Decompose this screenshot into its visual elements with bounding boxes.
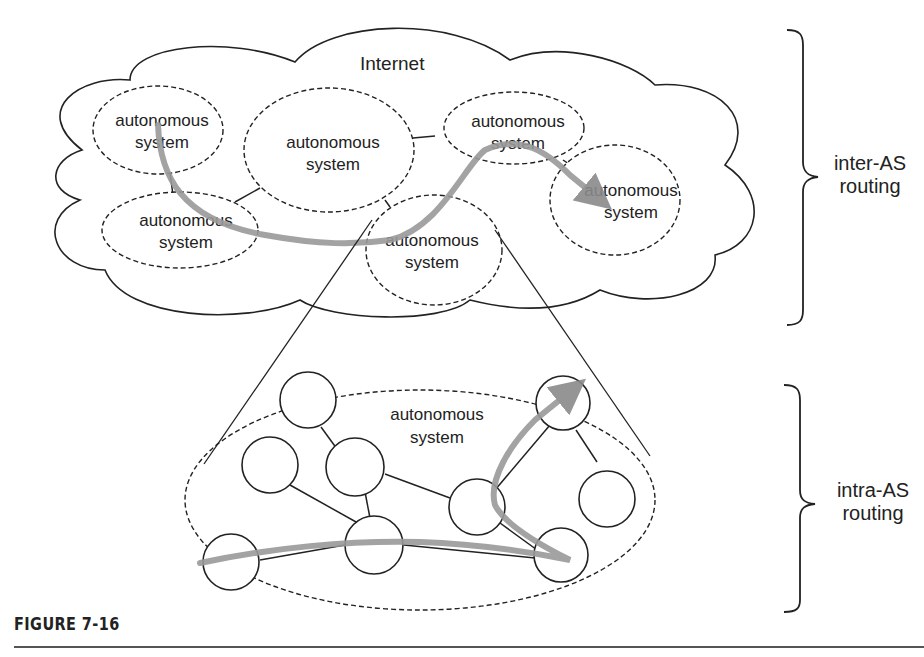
inter-as-label-1: inter-AS bbox=[834, 152, 906, 174]
intra-as-brace bbox=[784, 385, 815, 612]
as-node-5-label-2: system bbox=[159, 233, 213, 252]
caption-rule bbox=[14, 646, 924, 648]
router-6 bbox=[536, 376, 590, 430]
router-2 bbox=[242, 437, 298, 493]
intra-as-label-1: intra-AS bbox=[837, 479, 909, 501]
intra-as-label-2: system bbox=[410, 428, 464, 447]
internet-label: Internet bbox=[360, 53, 425, 74]
as-node-6-label-2: system bbox=[405, 253, 459, 272]
inter-as-label-2: routing bbox=[839, 175, 900, 197]
as-node-4 bbox=[550, 145, 680, 255]
as-node-6-label-1: autonomous bbox=[385, 231, 479, 250]
as-node-2-label-2: system bbox=[306, 155, 360, 174]
inter-as-brace bbox=[787, 30, 818, 325]
intra-as-label-2: routing bbox=[842, 502, 903, 524]
intra-as-label-1: autonomous bbox=[390, 405, 484, 424]
routing-diagram: Internet autonomous system autonomous sy… bbox=[0, 0, 924, 657]
as-node-2-label-1: autonomous bbox=[286, 133, 380, 152]
as-node-1-label-1: autonomous bbox=[115, 111, 209, 130]
as-node-3-label-1: autonomous bbox=[471, 112, 565, 131]
figure-caption: FIGURE 7-16 bbox=[14, 614, 120, 634]
as-node-4-label-2: system bbox=[604, 203, 658, 222]
router-1 bbox=[280, 372, 336, 428]
router-7 bbox=[579, 471, 635, 527]
router-3 bbox=[326, 438, 384, 496]
